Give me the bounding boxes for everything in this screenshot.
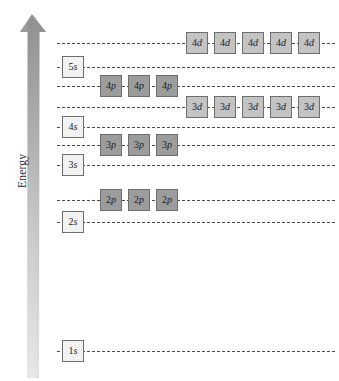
orbital-box-2p[interactable]: 2p xyxy=(128,189,150,211)
orbital-subshell-letter: d xyxy=(281,38,286,48)
orbital-box-group-5s: 5s xyxy=(62,56,84,78)
energy-level-2p: 2p2p2p xyxy=(0,189,339,213)
orbital-subshell-letter: s xyxy=(74,62,78,72)
orbital-box-3p[interactable]: 3p xyxy=(156,134,178,156)
orbital-box-4d[interactable]: 4d xyxy=(298,32,320,54)
orbital-box-group-2s: 2s xyxy=(62,211,84,233)
level-line-3s xyxy=(57,165,335,166)
orbital-subshell-letter: p xyxy=(139,195,144,205)
orbital-box-4d[interactable]: 4d xyxy=(214,32,236,54)
orbital-box-4p[interactable]: 4p xyxy=(156,75,178,97)
orbital-box-3d[interactable]: 3d xyxy=(242,96,264,118)
level-line-3p xyxy=(57,145,335,146)
orbital-box-4s[interactable]: 4s xyxy=(62,116,84,138)
orbital-box-3s[interactable]: 3s xyxy=(62,154,84,176)
orbital-box-3p[interactable]: 3p xyxy=(128,134,150,156)
orbital-box-group-3p: 3p3p3p xyxy=(100,134,178,156)
level-line-5s xyxy=(57,67,335,68)
orbital-box-3d[interactable]: 3d xyxy=(298,96,320,118)
orbital-subshell-letter: d xyxy=(197,102,202,112)
orbital-box-group-4s: 4s xyxy=(62,116,84,138)
orbital-box-3d[interactable]: 3d xyxy=(214,96,236,118)
orbital-subshell-letter: s xyxy=(74,160,78,170)
orbital-subshell-letter: p xyxy=(139,81,144,91)
orbital-subshell-letter: d xyxy=(197,38,202,48)
orbital-subshell-letter: p xyxy=(167,195,172,205)
orbital-box-2p[interactable]: 2p xyxy=(100,189,122,211)
orbital-box-4d[interactable]: 4d xyxy=(186,32,208,54)
energy-level-1s: 1s xyxy=(0,340,339,364)
level-line-2s xyxy=(57,222,335,223)
orbital-box-group-2p: 2p2p2p xyxy=(100,189,178,211)
level-line-1s xyxy=(57,351,335,352)
level-line-4s xyxy=(57,127,335,128)
orbital-subshell-letter: p xyxy=(111,195,116,205)
energy-level-2s: 2s xyxy=(0,211,339,235)
orbital-subshell-letter: s xyxy=(74,346,78,356)
orbital-box-4d[interactable]: 4d xyxy=(242,32,264,54)
orbital-box-4d[interactable]: 4d xyxy=(270,32,292,54)
orbital-box-5s[interactable]: 5s xyxy=(62,56,84,78)
orbital-box-3d[interactable]: 3d xyxy=(270,96,292,118)
energy-level-3s: 3s xyxy=(0,154,339,178)
orbital-subshell-letter: d xyxy=(253,38,258,48)
orbital-subshell-letter: d xyxy=(281,102,286,112)
energy-level-diagram: Energy 4d4d4d4d4d5s4p4p4p3d3d3d3d3d4s3p3… xyxy=(0,0,339,381)
orbital-box-group-3d: 3d3d3d3d3d xyxy=(186,96,320,118)
orbital-box-2p[interactable]: 2p xyxy=(156,189,178,211)
orbital-box-3p[interactable]: 3p xyxy=(100,134,122,156)
orbital-subshell-letter: s xyxy=(74,122,78,132)
orbital-box-3d[interactable]: 3d xyxy=(186,96,208,118)
level-line-4p xyxy=(57,86,335,87)
orbital-box-4p[interactable]: 4p xyxy=(100,75,122,97)
orbital-subshell-letter: d xyxy=(225,38,230,48)
orbital-box-2s[interactable]: 2s xyxy=(62,211,84,233)
orbital-subshell-letter: d xyxy=(309,102,314,112)
orbital-box-group-4p: 4p4p4p xyxy=(100,75,178,97)
orbital-subshell-letter: p xyxy=(111,81,116,91)
orbital-box-group-1s: 1s xyxy=(62,340,84,362)
orbital-subshell-letter: p xyxy=(167,81,172,91)
orbital-box-group-3s: 3s xyxy=(62,154,84,176)
energy-level-4d: 4d4d4d4d4d xyxy=(0,32,339,56)
orbital-box-1s[interactable]: 1s xyxy=(62,340,84,362)
orbital-subshell-letter: p xyxy=(167,140,172,150)
orbital-subshell-letter: d xyxy=(225,102,230,112)
orbital-subshell-letter: s xyxy=(74,217,78,227)
orbital-box-group-4d: 4d4d4d4d4d xyxy=(186,32,320,54)
level-line-2p xyxy=(57,200,335,201)
orbital-subshell-letter: d xyxy=(253,102,258,112)
orbital-subshell-letter: p xyxy=(139,140,144,150)
orbital-subshell-letter: d xyxy=(309,38,314,48)
orbital-subshell-letter: p xyxy=(111,140,116,150)
orbital-box-4p[interactable]: 4p xyxy=(128,75,150,97)
